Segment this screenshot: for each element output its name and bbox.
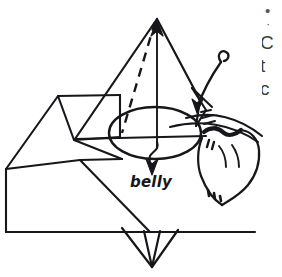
- margin-line-4: t: [262, 54, 282, 77]
- origami-diagram-page: belly • · C t c: [0, 0, 282, 277]
- dashed-fold-line: [122, 22, 155, 133]
- pyramid-triangle: [75, 19, 206, 139]
- bottom-tail-point: [122, 228, 178, 267]
- belly-label: belly: [130, 173, 172, 191]
- margin-line-5: c: [262, 77, 282, 100]
- up-arrow-apex: [151, 20, 163, 148]
- origami-figure: [0, 0, 282, 277]
- margin-line-2: ·: [266, 17, 282, 31]
- hook-arrow-head: [192, 99, 203, 113]
- model-base-outline: [6, 159, 255, 232]
- hand-illustration: [198, 128, 259, 205]
- left-pleat-flap: [6, 95, 122, 169]
- margin-line-3: C: [262, 31, 282, 54]
- right-shoulder-flap: [170, 88, 262, 142]
- margin-cutoff-text: • · C t c: [262, 4, 282, 100]
